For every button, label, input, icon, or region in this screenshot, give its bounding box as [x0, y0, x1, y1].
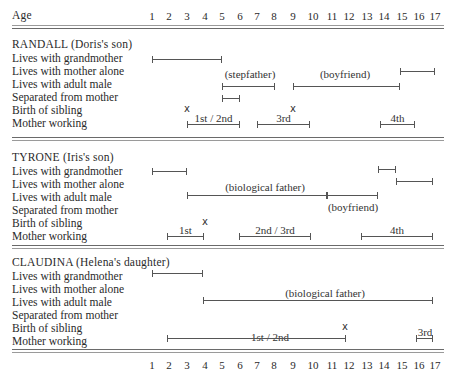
header-rule-bottom [12, 28, 444, 29]
row-label: Mother working [12, 335, 87, 348]
axis-tick: 10 [303, 10, 323, 22]
row-label: Mother working [12, 117, 87, 130]
row-label: Lives with mother alone [12, 178, 124, 191]
section-title: TYRONE (Iris's son) [12, 151, 114, 164]
bar-label: 1st [167, 224, 204, 236]
timeline-bar [327, 195, 378, 196]
row-label: Lives with adult male [12, 78, 112, 91]
timeline-bar [187, 195, 327, 196]
axis-tick: 8 [264, 359, 284, 371]
row-label: Separated from mother [12, 309, 118, 322]
section-rule-bottom [12, 140, 444, 141]
section-title: CLAUDINA (Helena's daughter) [12, 256, 170, 269]
row-label: Separated from mother [12, 204, 118, 217]
bar-label: (boyfriend) [300, 68, 390, 80]
section-title: RANDALL (Doris's son) [12, 38, 132, 51]
axis-tick: 5 [212, 10, 232, 22]
timeline-bar [293, 86, 400, 87]
axis-tick: 12 [339, 359, 359, 371]
row-label: Lives with mother alone [12, 65, 124, 78]
row-label: Lives with mother alone [12, 283, 124, 296]
row-label: Separated from mother [12, 91, 118, 104]
bar-label: (biological father) [260, 287, 390, 299]
axis-tick: 9 [283, 10, 303, 22]
footer-rule-bottom [12, 352, 444, 353]
row-label: Birth of sibling [12, 104, 82, 117]
bar-label: 1st / 2nd [187, 112, 240, 124]
footer-rule-top [12, 349, 444, 350]
timeline-bar [400, 71, 435, 72]
row-label: Lives with grandmother [12, 52, 123, 65]
timeline-bar [187, 124, 240, 125]
axis-tick: 12 [339, 10, 359, 22]
section-rule-bottom [12, 248, 444, 249]
timeline-bar [380, 124, 415, 125]
axis-tick: 3 [177, 10, 197, 22]
timeline-bar [167, 236, 204, 237]
timeline-bar [203, 300, 433, 301]
axis-tick: 2 [159, 359, 179, 371]
row-label: Birth of sibling [12, 217, 82, 230]
timeline-bar [361, 236, 433, 237]
row-label: Lives with adult male [12, 296, 112, 309]
axis-tick: 5 [212, 359, 232, 371]
age-header-label: Age [12, 9, 32, 22]
bar-label: 4th [361, 224, 433, 236]
axis-tick: 9 [283, 359, 303, 371]
axis-tick: 2 [159, 10, 179, 22]
timeline-bar [222, 98, 240, 99]
sibling-birth-mark: x [342, 322, 348, 332]
axis-tick: 10 [303, 359, 323, 371]
timeline-bar [152, 59, 222, 60]
axis-tick: 3 [177, 359, 197, 371]
timeline-bar [396, 181, 433, 182]
row-label: Lives with grandmother [12, 165, 123, 178]
header-rule-top [12, 25, 444, 26]
timeline-bar [152, 273, 203, 274]
axis-tick: 14 [374, 359, 394, 371]
row-label: Lives with grandmother [12, 270, 123, 283]
bar-label: 3rd [257, 112, 310, 124]
row-label: Lives with adult male [12, 191, 112, 204]
timeline-bar [222, 86, 275, 87]
axis-tick: 8 [264, 10, 284, 22]
row-label: Mother working [12, 230, 87, 243]
axis-tick: 17 [425, 10, 445, 22]
axis-tick: 17 [425, 359, 445, 371]
timeline-bar [167, 338, 346, 339]
timeline-bar [378, 169, 396, 170]
bar-label: 1st / 2nd [230, 331, 310, 343]
axis-tick: 14 [374, 10, 394, 22]
bar-label: (biological father) [200, 181, 330, 193]
timeline-bar [257, 124, 310, 125]
timeline-bar [239, 236, 311, 237]
bar-label: 4th [380, 112, 415, 124]
bar-label: (boyfriend) [322, 201, 384, 213]
timeline-bar [416, 338, 433, 339]
timeline-bar [152, 171, 187, 172]
bar-label: 2nd / 3rd [239, 224, 311, 236]
bar-label: (stepfather) [215, 68, 285, 80]
row-label: Birth of sibling [12, 322, 82, 335]
section-rule-top [12, 245, 444, 246]
section-rule-top [12, 137, 444, 138]
